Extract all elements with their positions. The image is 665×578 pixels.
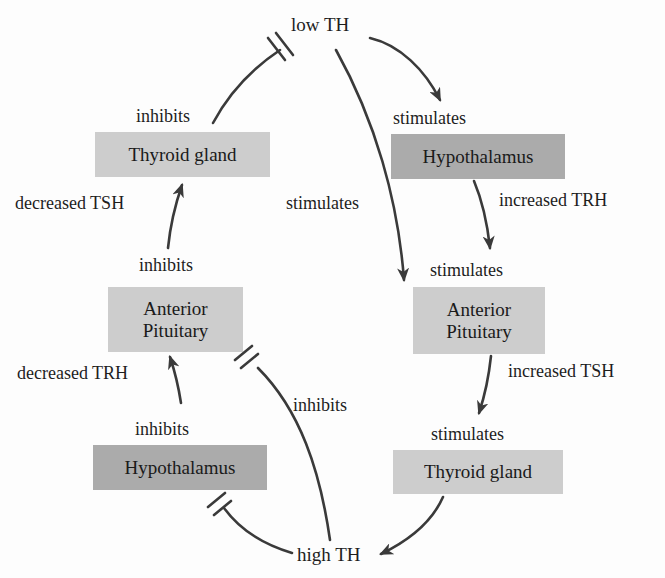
arrow-hypothalamus-to-pituitary bbox=[474, 181, 490, 248]
node-thyroid-left: Thyroid gland bbox=[95, 132, 270, 177]
arrow-lowth-to-hypothalamus bbox=[370, 38, 440, 100]
arrows-layer bbox=[0, 0, 665, 578]
node-hypothalamus-left: Hypothalamus bbox=[93, 445, 267, 490]
label-stimulates-pituitary: stimulates bbox=[430, 260, 503, 280]
arrow-thyroid-to-highth bbox=[381, 497, 443, 554]
label-increased-tsh: increased TSH bbox=[508, 361, 614, 381]
node-thyroid-left-text: Thyroid gland bbox=[128, 144, 236, 166]
inhibit-highth-to-hypothalamus bbox=[224, 508, 292, 553]
label-stimulates-hypothalamus: stimulates bbox=[393, 108, 466, 128]
node-pituitary-right: Anterior Pituitary bbox=[413, 287, 545, 354]
node-pituitary-right-line2: Pituitary bbox=[446, 321, 511, 343]
label-inhibits-pituitary: inhibits bbox=[139, 255, 193, 275]
node-hypothalamus-right-text: Hypothalamus bbox=[423, 146, 534, 168]
label-stimulates-thyroid: stimulates bbox=[431, 424, 504, 444]
arrow-to-pituitary-left bbox=[170, 357, 181, 403]
node-pituitary-right-line1: Anterior bbox=[447, 299, 511, 321]
node-pituitary-left: Anterior Pituitary bbox=[108, 287, 243, 352]
label-stimulates-direct: stimulates bbox=[286, 193, 359, 213]
node-hypothalamus-left-text: Hypothalamus bbox=[125, 457, 236, 479]
arrow-to-thyroid-left bbox=[168, 185, 182, 248]
arrow-pituitary-to-thyroid bbox=[479, 356, 491, 413]
high-th-label: high TH bbox=[297, 545, 361, 565]
label-inhibits-direct: inhibits bbox=[293, 395, 347, 415]
low-th-label: low TH bbox=[291, 15, 349, 35]
node-pituitary-left-line1: Anterior bbox=[143, 298, 207, 320]
label-decreased-tsh: decreased TSH bbox=[15, 193, 124, 213]
label-increased-trh: increased TRH bbox=[499, 190, 607, 210]
label-inhibits-hypothalamus: inhibits bbox=[135, 419, 189, 439]
node-hypothalamus-right: Hypothalamus bbox=[391, 134, 565, 179]
label-inhibits-thyroid: inhibits bbox=[136, 106, 190, 126]
label-decreased-trh: decreased TRH bbox=[17, 363, 128, 383]
node-pituitary-left-line2: Pituitary bbox=[143, 320, 208, 342]
node-thyroid-right-text: Thyroid gland bbox=[424, 461, 532, 483]
node-thyroid-right: Thyroid gland bbox=[393, 450, 563, 494]
feedback-diagram: low TH high TH stimulates Hypothalamus s… bbox=[0, 0, 665, 578]
inhibit-thyroid-to-lowth bbox=[213, 50, 280, 123]
inhibit-highth-to-pituitary bbox=[258, 368, 330, 540]
